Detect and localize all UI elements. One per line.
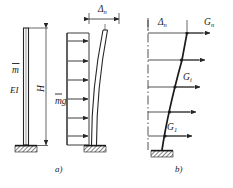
caption-b: b) — [175, 164, 183, 174]
label-stiffness-text: EI — [9, 85, 19, 95]
fixed-support-b — [151, 151, 173, 158]
label-force-G1: G1 — [167, 122, 177, 133]
panel-a-column-group: m EI H — [9, 28, 48, 152]
label-deflection-b: Δn — [157, 17, 167, 28]
fixed-support-a-loaded — [84, 146, 106, 153]
fixed-support-a — [15, 146, 37, 153]
figure-canvas: m EI H — [0, 0, 233, 188]
label-mass-text: m — [12, 65, 19, 75]
label-deflection-a: Δn — [97, 4, 107, 15]
caption-a: a) — [55, 164, 63, 174]
deflected-column-a — [92, 30, 108, 145]
label-mass-mbar: m — [12, 64, 20, 76]
label-force-Gn: Gn — [204, 17, 214, 28]
height-dimension-H: H — [29, 28, 49, 146]
distributed-load-frame — [67, 33, 89, 145]
panel-b-group: Gn Gi G1 Δn — [148, 17, 214, 157]
distributed-load-arrows — [67, 33, 88, 145]
label-load-text: mg — [55, 96, 67, 106]
label-force-Gi: Gi — [183, 72, 192, 83]
column-member — [24, 28, 29, 145]
deflection-dimension-a: Δn — [89, 4, 119, 30]
deflection-dimension-b: Δn — [148, 17, 187, 31]
label-height-text: H — [36, 84, 46, 93]
label-load-mg: mg — [55, 94, 67, 106]
lateral-force-arrows — [165, 33, 210, 136]
panel-a-loaded-group: mg Δn — [55, 4, 119, 152]
engineering-diagram-svg: m EI H — [0, 0, 233, 188]
